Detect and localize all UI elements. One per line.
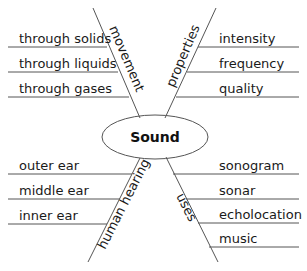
detail-inner-ear: inner ear (19, 208, 79, 223)
center-node: Sound (102, 115, 208, 159)
spider-map: Sound movement through solids through li… (0, 0, 307, 271)
branch-movement: movement through solids through liquids … (8, 8, 148, 118)
detail-sonogram: sonogram (219, 158, 284, 173)
branch-uses: uses sonogram sonar echolocation music (166, 157, 302, 262)
detail-through-liquids: through liquids (19, 56, 117, 71)
detail-through-gases: through gases (19, 81, 112, 96)
detail-music: music (219, 231, 257, 246)
detail-quality: quality (219, 81, 264, 96)
detail-through-solids: through solids (19, 31, 111, 46)
detail-echolocation: echolocation (219, 207, 302, 222)
branch-label-human-hearing: human hearing (94, 156, 152, 251)
detail-intensity: intensity (219, 31, 276, 46)
branch-human-hearing: human hearing outer ear middle ear inner… (8, 156, 153, 262)
detail-middle-ear: middle ear (19, 183, 89, 198)
branch-properties: properties intensity frequency quality (163, 8, 299, 118)
detail-outer-ear: outer ear (19, 158, 80, 173)
detail-sonar: sonar (219, 183, 256, 198)
center-label: Sound (130, 129, 180, 145)
branch-label-uses: uses (173, 191, 200, 225)
detail-frequency: frequency (219, 56, 285, 71)
